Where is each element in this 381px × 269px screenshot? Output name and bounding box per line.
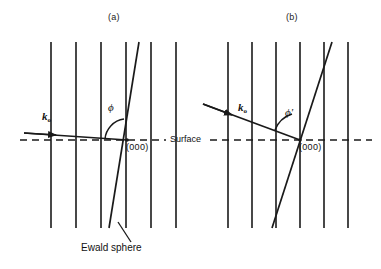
angle-label-b: ϕ' xyxy=(285,106,293,118)
origin-label-b: (000) xyxy=(299,142,322,152)
ewald-sphere-leader-line xyxy=(118,222,131,242)
angle-arc-a xyxy=(105,119,124,139)
beam-label-a-symbol: k xyxy=(42,110,48,122)
beam-label-b-symbol: k xyxy=(238,101,244,113)
panel-a-graphics xyxy=(24,42,176,228)
beam-label-b-subscript: o xyxy=(244,107,248,115)
ewald-sphere-figure: (a) (b) ko ϕ (000) ko ϕ' (000) Surface E… xyxy=(0,0,381,269)
beam-label-a-subscript: o xyxy=(48,116,52,124)
panel-b-title: (b) xyxy=(286,12,298,22)
panel-a-title: (a) xyxy=(108,12,120,22)
beam-label-b: ko xyxy=(238,101,247,113)
surface-label: Surface xyxy=(170,134,201,144)
ewald-sphere-line-b xyxy=(272,42,332,228)
panel-b-graphics xyxy=(203,42,348,228)
origin-label-a: (000) xyxy=(126,142,149,152)
ewald-sphere-line-a xyxy=(109,42,139,228)
beam-label-a: ko xyxy=(42,110,51,122)
ewald-sphere-label: Ewald sphere xyxy=(81,242,142,253)
angle-label-a: ϕ xyxy=(108,101,114,113)
